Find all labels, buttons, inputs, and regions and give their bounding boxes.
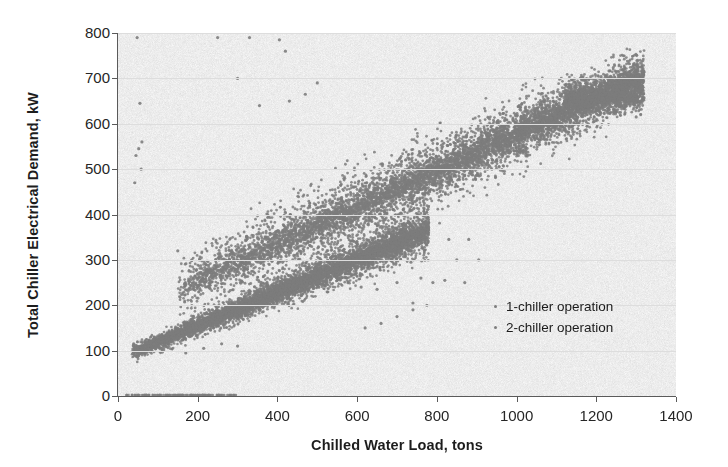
x-tick-mark [198,397,199,402]
y-tick-mark [112,260,117,261]
x-tick-label: 800 [407,408,467,423]
scatter-chart-figure: Total Chiller Electrical Demand, kW 0100… [0,0,728,467]
x-tick-label: 1200 [566,408,626,423]
x-axis-tick-labels: 0200400600800100012001400 [0,0,728,467]
x-tick-mark [118,397,119,402]
legend-item: 1-chiller operation [494,296,613,317]
legend-item-label: 2-chiller operation [506,321,613,335]
legend-item: 2-chiller operation [494,317,613,338]
y-tick-mark [112,169,117,170]
x-tick-mark [676,397,677,402]
y-tick-mark [112,124,117,125]
y-tick-mark [112,305,117,306]
chart-legend: 1-chiller operation 2-chiller operation [494,296,613,338]
y-tick-mark [112,33,117,34]
legend-marker-icon [494,305,497,308]
y-tick-mark [112,78,117,79]
x-tick-mark [357,397,358,402]
y-tick-mark [112,215,117,216]
x-tick-label: 400 [247,408,307,423]
x-tick-mark [437,397,438,402]
legend-marker-icon [494,326,497,329]
x-tick-label: 600 [327,408,387,423]
y-tick-mark [112,396,117,397]
x-tick-label: 200 [168,408,228,423]
x-tick-label: 1400 [646,408,706,423]
legend-item-label: 1-chiller operation [506,300,613,314]
x-tick-mark [517,397,518,402]
x-tick-label: 0 [88,408,148,423]
x-axis-title: Chilled Water Load, tons [118,437,676,453]
x-tick-label: 1000 [487,408,547,423]
x-tick-mark [596,397,597,402]
x-tick-mark [277,397,278,402]
y-tick-mark [112,351,117,352]
